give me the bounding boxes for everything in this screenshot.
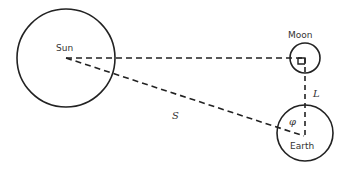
sun-earth-moon-diagram: Sun Moon Earth S L φ [0,0,349,169]
distance-l-label: L [312,88,320,99]
sun-label: Sun [56,43,73,53]
earth-label: Earth [290,141,314,151]
distance-s-label: S [172,110,179,121]
right-angle-marker [298,58,305,64]
angle-phi-label: φ [289,116,296,127]
moon-label: Moon [288,30,312,40]
sun-earth-line [66,58,304,136]
right-angle-marker-inner [298,58,305,64]
